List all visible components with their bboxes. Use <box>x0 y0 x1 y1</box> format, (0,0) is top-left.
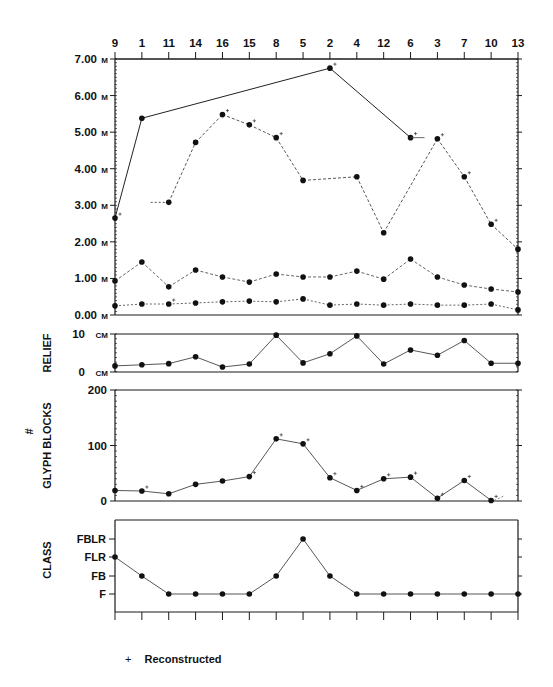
data-point <box>354 268 360 274</box>
data-point <box>166 301 172 307</box>
data-point <box>273 299 279 305</box>
data-point <box>247 591 253 597</box>
svg-text:M: M <box>101 239 108 248</box>
category-label: 12 <box>377 37 390 49</box>
data-point <box>461 591 467 597</box>
data-point <box>461 174 467 180</box>
data-point <box>327 65 333 71</box>
data-point <box>515 307 521 313</box>
data-point <box>220 274 226 280</box>
data-point <box>112 303 118 309</box>
category-label: 6 <box>407 37 413 49</box>
data-point <box>354 333 360 339</box>
category-label: 2 <box>327 37 333 49</box>
data-point <box>247 474 253 480</box>
data-point <box>247 279 253 285</box>
data-point <box>112 488 118 494</box>
data-point <box>381 476 387 482</box>
data-point <box>327 302 333 308</box>
svg-text:M: M <box>101 56 108 65</box>
data-point <box>166 491 172 497</box>
data-point <box>112 278 118 284</box>
data-point <box>435 274 441 280</box>
category-label: 14 <box>189 37 202 49</box>
data-point <box>247 122 253 128</box>
data-point <box>327 274 333 280</box>
data-point <box>300 441 306 447</box>
data-point <box>515 591 521 597</box>
data-point <box>220 112 226 118</box>
svg-text:4.00: 4.00 <box>75 163 97 175</box>
data-point <box>273 135 279 141</box>
data-point <box>139 488 145 494</box>
data-point <box>220 591 226 597</box>
svg-text:10: 10 <box>72 328 85 340</box>
svg-text:CM: CM <box>96 369 109 378</box>
data-point <box>515 246 521 252</box>
data-point <box>273 332 279 338</box>
data-point <box>273 436 279 442</box>
svg-text:FBLR: FBLR <box>77 533 106 545</box>
data-point <box>488 498 494 504</box>
svg-text:1.00: 1.00 <box>75 272 97 284</box>
data-point <box>488 360 494 366</box>
data-point <box>461 302 467 308</box>
glyph-blocks-axis-label: GLYPH BLOCKS <box>41 402 53 488</box>
category-label: 15 <box>243 37 256 49</box>
category-label: 4 <box>354 37 361 49</box>
data-point <box>220 364 226 370</box>
data-point <box>488 301 494 307</box>
data-point <box>354 174 360 180</box>
data-point <box>435 352 441 358</box>
data-point <box>327 475 333 481</box>
svg-text:CM: CM <box>96 331 109 340</box>
data-point <box>193 140 199 146</box>
category-label: 16 <box>216 37 229 49</box>
svg-text:0: 0 <box>101 495 107 507</box>
category-label: 7 <box>461 37 467 49</box>
data-point <box>220 299 226 305</box>
data-point <box>488 286 494 292</box>
data-point <box>408 256 414 262</box>
data-point <box>300 178 306 184</box>
data-point <box>354 488 360 494</box>
relief-axis-label: RELIEF <box>41 333 53 372</box>
category-label: 10 <box>485 37 498 49</box>
data-point <box>327 573 333 579</box>
data-point <box>435 495 441 501</box>
category-label: 1 <box>139 37 146 49</box>
data-point <box>300 274 306 280</box>
svg-text:0.00: 0.00 <box>75 309 97 321</box>
reconstructed-marker-icon: + <box>125 653 131 665</box>
legend: + Reconstructed <box>125 653 222 665</box>
data-point <box>139 573 145 579</box>
category-label: 11 <box>163 37 176 49</box>
data-point <box>166 591 172 597</box>
svg-text:M: M <box>101 312 108 321</box>
data-point <box>435 136 441 142</box>
svg-text:7.00: 7.00 <box>75 53 97 65</box>
data-point <box>381 591 387 597</box>
svg-text:200: 200 <box>88 384 107 396</box>
svg-text:3.00: 3.00 <box>75 199 97 211</box>
data-point <box>381 276 387 282</box>
svg-text:2.00: 2.00 <box>75 236 97 248</box>
svg-text:M: M <box>101 202 108 211</box>
data-point <box>139 362 145 368</box>
data-point <box>193 354 199 360</box>
data-point <box>408 301 414 307</box>
category-label: 13 <box>512 37 525 49</box>
data-point <box>461 282 467 288</box>
data-point <box>488 222 494 228</box>
data-point <box>139 115 145 121</box>
data-point <box>354 301 360 307</box>
svg-text:5.00: 5.00 <box>75 126 97 138</box>
data-point <box>193 300 199 306</box>
svg-text:0: 0 <box>79 366 85 378</box>
svg-text:M: M <box>101 166 108 175</box>
data-point <box>327 351 333 357</box>
data-point <box>112 554 118 560</box>
data-point <box>247 361 253 367</box>
data-point <box>435 591 441 597</box>
data-point <box>488 591 494 597</box>
